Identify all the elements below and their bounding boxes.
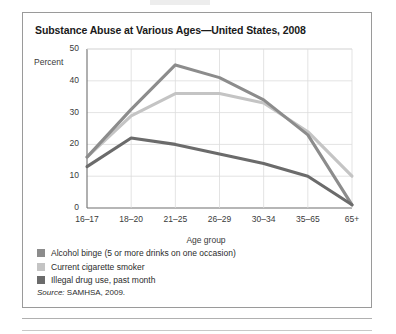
legend-swatch-drug	[37, 276, 45, 284]
page-rule-bottom	[22, 330, 372, 331]
page-artifact	[150, 0, 210, 5]
figure-card: Substance Abuse at Various Ages—United S…	[22, 12, 372, 308]
legend-item-drug: Illegal drug use, past month	[37, 275, 236, 285]
legend-label-drug: Illegal drug use, past month	[51, 275, 155, 285]
legend-item-alcohol: Alcohol binge (5 or more drinks on one o…	[37, 248, 236, 258]
figure-page: Substance Abuse at Various Ages—United S…	[0, 0, 396, 334]
x-axis-tick: 21–25	[152, 214, 198, 224]
x-axis-tick: 16–17	[64, 214, 110, 224]
legend-label-cigarette: Current cigarette smoker	[51, 262, 145, 272]
page-rule-top	[22, 318, 372, 319]
x-axis-tick: 30–34	[241, 214, 287, 224]
y-axis-tick: 20	[53, 138, 79, 148]
chart-legend: Alcohol binge (5 or more drinks on one o…	[37, 248, 236, 289]
source-body: SAMHSA, 2009.	[65, 288, 125, 297]
y-axis-tick: 0	[53, 202, 79, 212]
legend-swatch-alcohol	[37, 249, 45, 257]
source-note: Source: SAMHSA, 2009.	[37, 288, 125, 297]
x-axis-tick: 65+	[329, 214, 375, 224]
y-axis-tick: 50	[53, 43, 79, 53]
x-axis-tick: 26–29	[197, 214, 243, 224]
x-axis-tick: 18–20	[108, 214, 154, 224]
y-axis-tick: 40	[53, 75, 79, 85]
legend-swatch-cigarette	[37, 263, 45, 271]
y-axis-tick: 10	[53, 170, 79, 180]
y-axis-tick: 30	[53, 107, 79, 117]
source-prefix: Source:	[37, 288, 65, 297]
legend-label-alcohol: Alcohol binge (5 or more drinks on one o…	[51, 248, 236, 258]
legend-item-cigarette: Current cigarette smoker	[37, 262, 236, 272]
x-axis-title: Age group	[31, 235, 381, 245]
x-axis-tick: 35–65	[285, 214, 331, 224]
